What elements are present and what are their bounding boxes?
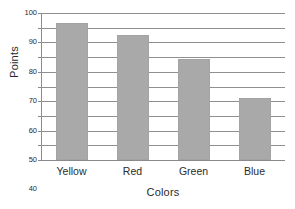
- x-axis-tick-labels: YellowRedGreenBlue: [41, 165, 285, 181]
- y-axis-tick-label: 70: [29, 97, 37, 105]
- y-axis-tick-label: 60: [29, 127, 37, 135]
- y-axis-tick-mark: [38, 160, 41, 161]
- plot-area: 0102030405060708090100: [41, 13, 285, 160]
- bar-blue: [239, 98, 271, 160]
- x-axis-tick-label-blue: Blue: [224, 165, 285, 178]
- bar-chart-figure: Points 0102030405060708090100 YellowRedG…: [0, 0, 295, 209]
- y-axis-title: Points: [8, 26, 20, 98]
- y-axis-tick-label: 80: [29, 68, 37, 76]
- y-axis-tick-label: 100: [24, 9, 37, 17]
- x-axis-tick-label-yellow: Yellow: [41, 165, 102, 178]
- y-axis-tick-label: 40: [29, 186, 37, 194]
- x-axis-tick-label-red: Red: [102, 165, 163, 178]
- y-axis-tick-label: 50: [29, 156, 37, 164]
- x-axis-tick-label-green: Green: [163, 165, 224, 178]
- bars-layer: [41, 13, 285, 160]
- bar-red: [117, 35, 149, 160]
- x-axis-baseline: 0: [41, 160, 285, 161]
- x-axis-title: Colors: [41, 186, 285, 198]
- bar-green: [178, 59, 210, 160]
- y-axis-tick-label: 90: [29, 39, 37, 47]
- bar-yellow: [56, 23, 88, 160]
